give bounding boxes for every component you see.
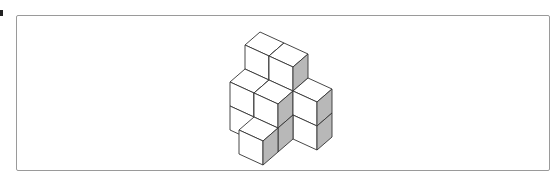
cube-stack-diagram xyxy=(0,0,559,182)
